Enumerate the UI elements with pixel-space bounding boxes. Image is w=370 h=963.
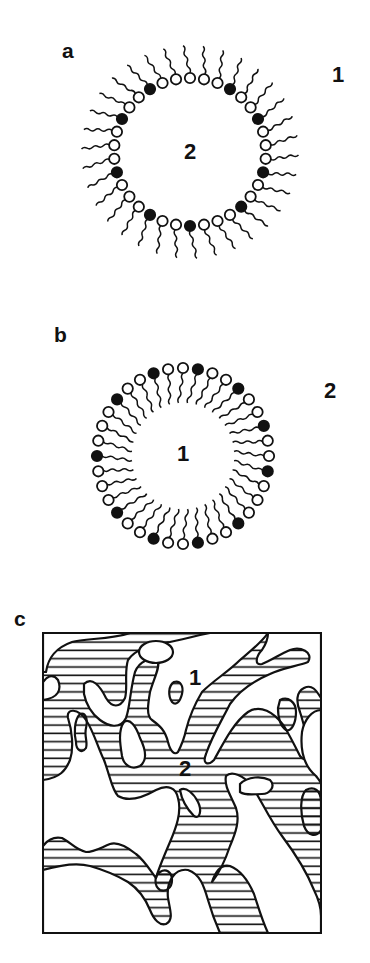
open-polar-head (97, 481, 107, 491)
filled-polar-head (145, 210, 155, 220)
open-polar-head (199, 220, 209, 230)
open-polar-head (245, 102, 255, 112)
hydrocarbon-tail (225, 414, 253, 425)
hatched-domains (43, 633, 321, 933)
hydrocarbon-tail (155, 378, 161, 407)
hydrocarbon-tail (168, 375, 171, 405)
filled-polar-head (236, 202, 246, 212)
open-polar-head (134, 202, 144, 212)
hydrocarbon-tail (138, 219, 147, 246)
hydrocarbon-tail (219, 403, 245, 419)
open-polar-head (199, 74, 209, 84)
open-polar-head (212, 78, 222, 88)
hydrocarbon-tail (263, 98, 284, 116)
panel-a-micelle: a 1 2 (0, 0, 370, 300)
hydrocarbon-tail (233, 470, 259, 484)
panel-c-bicontinuous: c 1 2 (0, 580, 370, 963)
hydrocarbon-tail (122, 211, 135, 236)
filled-polar-head (112, 394, 122, 404)
open-polar-head (109, 140, 119, 150)
filled-polar-head (112, 167, 122, 177)
hydrocarbon-tail (245, 211, 268, 226)
hydrocarbon-tail (155, 508, 169, 534)
hydrocarbon-tail (103, 442, 131, 452)
hydrocarbon-tail (107, 478, 136, 484)
hydrocarbon-tail (127, 65, 147, 85)
open-polar-head (252, 407, 262, 417)
hydrocarbon-tail (142, 384, 153, 412)
open-polar-head (171, 74, 181, 84)
hydrocarbon-tail (121, 494, 147, 510)
hydrocarbon-tail (213, 500, 224, 528)
open-polar-head (245, 191, 255, 201)
hydrocarbon-tail (271, 155, 299, 160)
hydrocarbon-tail (157, 226, 161, 254)
hydrocarbon-tail (113, 415, 137, 434)
open-polar-head (178, 539, 188, 549)
filled-polar-head (233, 518, 243, 528)
open-polar-head (163, 538, 173, 548)
open-polar-head (157, 78, 167, 88)
hydrocarbon-tail (205, 384, 224, 407)
open-polar-head (263, 436, 273, 446)
hydrocarbon-tail (163, 49, 175, 74)
hydrocarbon-tail (178, 373, 183, 403)
filled-polar-head (145, 84, 155, 94)
open-polar-head (178, 363, 188, 373)
hydrocarbon-tail (268, 173, 296, 176)
filled-polar-head (148, 534, 158, 544)
filled-polar-head (259, 421, 269, 431)
hydrocarbon-tail (219, 226, 235, 249)
open-polar-head (221, 527, 231, 537)
hydrocarbon-tail (108, 200, 126, 222)
filled-polar-head (193, 538, 203, 548)
filled-polar-head (233, 383, 243, 393)
hydrocarbon-tail (169, 509, 179, 537)
hydrocarbon-tail (233, 219, 253, 239)
hydrocarbon-tail (271, 135, 297, 145)
hydrocarbon-tail (183, 46, 190, 73)
hydrocarbon-tail (205, 230, 217, 255)
hydrocarbon-tail (268, 116, 292, 130)
hydrocarbon-tail (131, 393, 147, 419)
filled-polar-head (117, 114, 127, 124)
hydrocarbon-tail (196, 378, 210, 404)
filled-polar-head (193, 364, 203, 374)
open-polar-head (93, 436, 103, 446)
hydrocarbon-tail (219, 494, 235, 520)
hydrocarbon-tail (99, 93, 125, 104)
open-polar-head (123, 383, 133, 393)
hydrocarbon-tail (263, 187, 290, 193)
region-label-outer-a: 1 (332, 64, 344, 86)
open-polar-head (264, 451, 274, 461)
open-polar-head (103, 495, 113, 505)
hydrocarbon-tail (90, 110, 117, 116)
filled-polar-head (258, 167, 268, 177)
open-polar-head (259, 481, 269, 491)
open-polar-head (253, 180, 263, 190)
open-polar-head (252, 495, 262, 505)
open-polar-head (97, 421, 107, 431)
open-polar-head (112, 127, 122, 137)
filled-polar-head (185, 221, 195, 231)
open-polar-head (261, 154, 271, 164)
hydrocarbon-tail (233, 58, 242, 85)
hydrocarbon-tail (205, 504, 211, 533)
region-label-2-c: 2 (179, 758, 191, 780)
hydrocarbon-tail (190, 231, 197, 258)
filled-polar-head (263, 466, 273, 476)
hydrocarbon-tail (83, 159, 109, 169)
hydrocarbon-tail (203, 46, 206, 74)
filled-polar-head (253, 114, 263, 124)
open-polar-head (163, 364, 173, 374)
open-polar-head (93, 466, 103, 476)
hydrocarbon-tail (255, 200, 281, 211)
hydrocarbon-tail (245, 69, 258, 94)
hydrocarbon-tail (112, 78, 135, 93)
hydrocarbon-tail (113, 487, 141, 498)
open-polar-head (135, 375, 145, 385)
region-label-inner-a: 2 (184, 141, 196, 163)
filled-polar-head (225, 84, 235, 94)
hydrocarbon-tail (102, 456, 132, 461)
open-polar-head (185, 73, 195, 83)
